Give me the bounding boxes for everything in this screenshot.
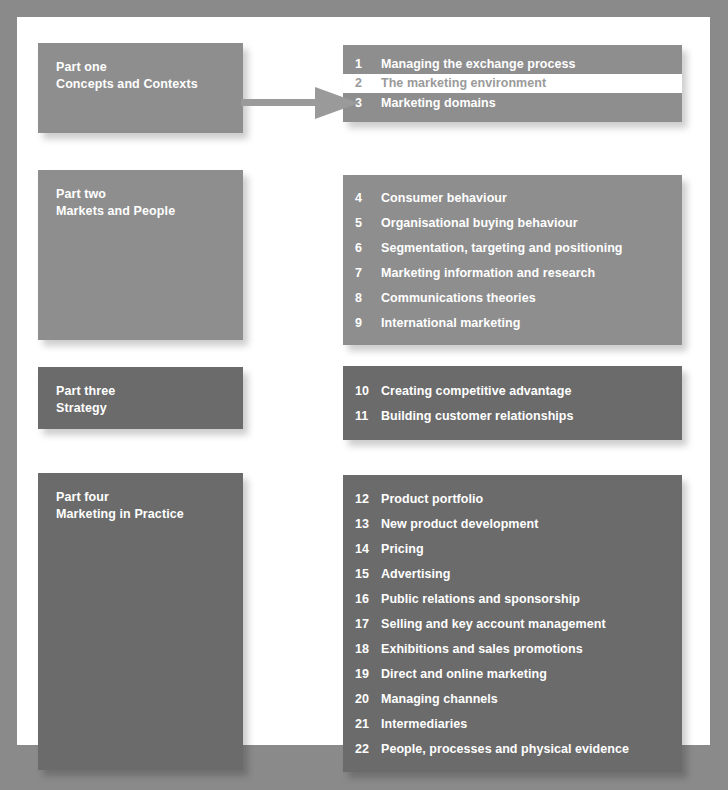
chapter-title: Creating competitive advantage <box>381 384 571 398</box>
chapter-row[interactable]: 9International marketing <box>343 310 682 335</box>
chapter-title: Intermediaries <box>381 717 467 731</box>
chapter-number: 15 <box>355 567 381 581</box>
chapter-title: Managing the exchange process <box>381 57 576 71</box>
part-subtitle: Concepts and Contexts <box>56 76 243 93</box>
part-box-part-two[interactable]: Part twoMarkets and People <box>38 170 243 340</box>
chapter-row[interactable]: 13New product development <box>343 511 682 536</box>
chapter-title: Advertising <box>381 567 450 581</box>
chapter-number: 20 <box>355 692 381 706</box>
chapter-number: 13 <box>355 517 381 531</box>
chapter-row-highlighted[interactable]: 2The marketing environment <box>343 74 682 94</box>
part-box-part-one[interactable]: Part oneConcepts and Contexts <box>38 43 243 133</box>
chapter-row[interactable]: 18Exhibitions and sales promotions <box>343 636 682 661</box>
chapter-title: Pricing <box>381 542 424 556</box>
part-label: Part two <box>56 186 243 203</box>
chapter-number: 21 <box>355 717 381 731</box>
book-structure-diagram: 1Managing the exchange process2The marke… <box>17 17 710 745</box>
chapter-row[interactable]: 12Product portfolio <box>343 486 682 511</box>
chapter-title: Exhibitions and sales promotions <box>381 642 583 656</box>
chapter-row[interactable]: 22People, processes and physical evidenc… <box>343 736 682 761</box>
part-subtitle: Markets and People <box>56 203 243 220</box>
chapter-row[interactable]: 11Building customer relationships <box>343 403 682 428</box>
chapter-title: Marketing domains <box>381 96 496 110</box>
part-label: Part three <box>56 383 243 400</box>
chapter-title: Communications theories <box>381 291 536 305</box>
chapter-number: 4 <box>355 191 381 205</box>
chapter-number: 10 <box>355 384 381 398</box>
chapter-number: 17 <box>355 617 381 631</box>
chapter-number: 9 <box>355 316 381 330</box>
chapter-title: Consumer behaviour <box>381 191 507 205</box>
chapter-title: The marketing environment <box>381 76 546 90</box>
chapter-title: Product portfolio <box>381 492 483 506</box>
chapter-title: New product development <box>381 517 538 531</box>
part-subtitle: Strategy <box>56 400 243 417</box>
chapter-list-part-one: 1Managing the exchange process2The marke… <box>343 45 682 122</box>
diagram-page: 1Managing the exchange process2The marke… <box>17 17 710 745</box>
chapter-title: Marketing information and research <box>381 266 595 280</box>
chapter-number: 5 <box>355 216 381 230</box>
chapter-number: 12 <box>355 492 381 506</box>
chapter-number: 18 <box>355 642 381 656</box>
chapter-number: 19 <box>355 667 381 681</box>
chapter-title: International marketing <box>381 316 520 330</box>
chapter-row[interactable]: 6Segmentation, targeting and positioning <box>343 235 682 260</box>
chapter-row[interactable]: 17Selling and key account management <box>343 611 682 636</box>
chapter-title: Selling and key account management <box>381 617 606 631</box>
chapter-row[interactable]: 7Marketing information and research <box>343 260 682 285</box>
chapter-list-part-three: 10Creating competitive advantage11Buildi… <box>343 366 682 440</box>
part-box-part-three[interactable]: Part threeStrategy <box>38 367 243 429</box>
chapter-row[interactable]: 1Managing the exchange process <box>343 54 682 74</box>
chapter-row[interactable]: 5Organisational buying behaviour <box>343 210 682 235</box>
part-box-part-four[interactable]: Part fourMarketing in Practice <box>38 473 243 770</box>
chapter-number: 2 <box>355 76 381 90</box>
chapter-number: 7 <box>355 266 381 280</box>
chapter-row[interactable]: 20Managing channels <box>343 686 682 711</box>
chapter-number: 16 <box>355 592 381 606</box>
chapter-row[interactable]: 15Advertising <box>343 561 682 586</box>
chapter-title: Segmentation, targeting and positioning <box>381 241 623 255</box>
chapter-number: 11 <box>355 409 381 423</box>
chapter-row[interactable]: 21Intermediaries <box>343 711 682 736</box>
chapter-title: Organisational buying behaviour <box>381 216 578 230</box>
chapter-number: 14 <box>355 542 381 556</box>
chapter-row[interactable]: 19Direct and online marketing <box>343 661 682 686</box>
chapter-number: 1 <box>355 57 381 71</box>
chapter-title: Managing channels <box>381 692 498 706</box>
chapter-list-part-four: 12Product portfolio13New product develop… <box>343 475 682 772</box>
chapter-title: Public relations and sponsorship <box>381 592 580 606</box>
chapter-number: 22 <box>355 742 381 756</box>
chapter-number: 8 <box>355 291 381 305</box>
chapter-row[interactable]: 8Communications theories <box>343 285 682 310</box>
part-label: Part one <box>56 59 243 76</box>
chapter-title: Building customer relationships <box>381 409 574 423</box>
chapter-list-part-two: 4Consumer behaviour5Organisational buyin… <box>343 175 682 345</box>
part-label: Part four <box>56 489 243 506</box>
chapter-row[interactable]: 10Creating competitive advantage <box>343 378 682 403</box>
chapter-row[interactable]: 3Marketing domains <box>343 93 682 113</box>
chapter-row[interactable]: 14Pricing <box>343 536 682 561</box>
chapter-number: 6 <box>355 241 381 255</box>
chapter-row[interactable]: 16Public relations and sponsorship <box>343 586 682 611</box>
part-subtitle: Marketing in Practice <box>56 506 243 523</box>
chapter-row[interactable]: 4Consumer behaviour <box>343 185 682 210</box>
chapter-title: Direct and online marketing <box>381 667 547 681</box>
chapter-number: 3 <box>355 96 381 110</box>
flow-arrow-icon <box>239 83 359 123</box>
chapter-title: People, processes and physical evidence <box>381 742 629 756</box>
